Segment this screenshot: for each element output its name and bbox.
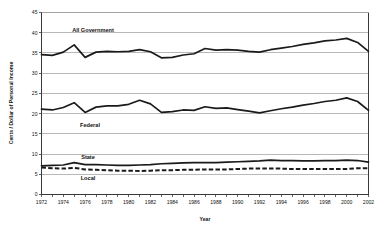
x-tick-label: 1998 xyxy=(319,199,330,205)
chart-container: 051015202530354045 197219741976197819801… xyxy=(0,0,385,229)
axes xyxy=(42,13,369,195)
x-tick-label: 1984 xyxy=(167,199,178,205)
x-tick-label: 1986 xyxy=(188,199,199,205)
x-tick-label: 1976 xyxy=(79,199,90,205)
x-tick-label: 1992 xyxy=(254,199,265,205)
x-tick-label: 1996 xyxy=(297,199,308,205)
y-tick-label: 30 xyxy=(32,70,38,76)
grid-lines xyxy=(42,13,369,175)
x-tick-label: 1978 xyxy=(101,199,112,205)
y-tick-label: 45 xyxy=(32,9,38,15)
x-tick-label: 1974 xyxy=(58,199,69,205)
x-tick-label: 2000 xyxy=(341,199,352,205)
x-tick-label: 1972 xyxy=(36,199,47,205)
x-tick-label: 1980 xyxy=(123,199,134,205)
series-line-federal xyxy=(42,98,369,113)
x-tick-label: 2002 xyxy=(363,199,374,205)
x-tick-label: 1994 xyxy=(276,199,287,205)
x-tick-labels: 1972197419761978198019821984198619881990… xyxy=(36,199,374,205)
y-tick-label: 5 xyxy=(35,171,38,177)
series-annotation-federal: Federal xyxy=(80,122,100,128)
y-tick-label: 10 xyxy=(32,151,38,157)
data-series xyxy=(42,38,369,171)
x-tick-label: 1990 xyxy=(232,199,243,205)
series-line-state xyxy=(42,160,369,166)
y-tick-label: 20 xyxy=(32,111,38,117)
y-tick-label: 35 xyxy=(32,50,38,56)
y-tick-labels: 051015202530354045 xyxy=(32,9,38,197)
line-chart: 051015202530354045 197219741976197819801… xyxy=(0,0,385,229)
series-line-local xyxy=(42,167,369,171)
y-tick-label: 25 xyxy=(32,90,38,96)
series-annotation-all-government: All Government xyxy=(72,27,114,33)
series-line-all-government xyxy=(42,38,369,57)
y-tick-label: 15 xyxy=(32,131,38,137)
y-tick-label: 40 xyxy=(32,30,38,36)
x-axis-title: Year xyxy=(200,216,211,222)
x-tick-label: 1982 xyxy=(145,199,156,205)
series-annotation-state: State xyxy=(81,154,95,160)
y-axis-title: Cents / Dollar of Personal Income xyxy=(8,62,14,145)
x-tick-label: 1988 xyxy=(210,199,221,205)
series-annotation-local: Local xyxy=(81,175,96,181)
y-tick-label: 0 xyxy=(35,191,38,197)
